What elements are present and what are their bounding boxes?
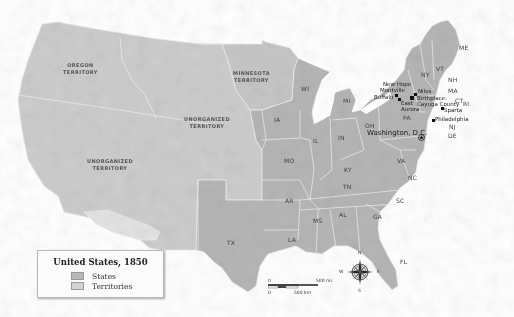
label-line: Territory xyxy=(87,165,133,172)
state-label-sc: SC xyxy=(396,198,404,204)
compass-e: E xyxy=(377,269,380,274)
state-label-pa: PA xyxy=(403,115,411,121)
label-minnesota-territory: Minnesota Territory xyxy=(233,70,270,83)
map-legend: United States, 1850 States Territories xyxy=(37,250,164,298)
label-line: Minnesota xyxy=(233,70,270,77)
state-label-de: DE xyxy=(448,133,457,139)
scale-km-end: 500 km xyxy=(294,290,311,295)
state-label-ms: MS xyxy=(313,218,322,224)
compass-n: N xyxy=(358,250,361,255)
compass-w: W xyxy=(339,269,343,274)
state-label-fl: FL xyxy=(400,259,407,265)
legend-item-states: States xyxy=(71,272,116,280)
state-label-nj: NJ xyxy=(449,124,456,130)
capital-star-icon xyxy=(418,134,425,141)
marker-new-hope xyxy=(395,94,398,97)
state-label-ky: KY xyxy=(344,167,352,173)
state-label-me: ME xyxy=(459,45,468,51)
scale-bar: 0 500 mi. 0 500 km xyxy=(266,278,338,298)
state-label-ny: NY xyxy=(421,72,430,78)
legend-item-territories: Territories xyxy=(71,282,132,290)
label-line: Unorganized xyxy=(184,116,230,123)
city-label-buffalo: Buffalo xyxy=(374,95,393,101)
state-label-la: LA xyxy=(288,237,296,243)
state-label-wi: WI xyxy=(301,86,309,92)
state-label-il: IL xyxy=(313,138,319,144)
label-line: Territory xyxy=(63,69,98,76)
scale-bar-graphic xyxy=(268,284,320,289)
state-label-vt: VT xyxy=(436,66,444,72)
state-label-ia: IA xyxy=(274,117,280,123)
state-label-al: AL xyxy=(339,212,347,218)
city-label-niles: Niles xyxy=(418,89,431,95)
label-line: Territory xyxy=(233,77,270,84)
label-line: Oregon xyxy=(63,62,98,69)
label-line: Unorganized xyxy=(87,158,133,165)
compass-rose: N S W E xyxy=(343,255,377,289)
state-label-ar: AR xyxy=(285,198,294,204)
compass-s: S xyxy=(358,288,361,293)
territories-swatch xyxy=(71,282,84,290)
state-label-ma: MA xyxy=(448,88,458,94)
state-label-nh: NH xyxy=(448,77,457,83)
label-line: Territory xyxy=(184,123,230,130)
label-unorganized-territory-west: Unorganized Territory xyxy=(87,158,133,171)
legend-label-territories: Territories xyxy=(92,282,132,291)
state-label-va: VA xyxy=(397,158,405,164)
state-label-ga: GA xyxy=(373,214,382,220)
label-oregon-territory: Oregon Territory xyxy=(63,62,98,75)
legend-label-states: States xyxy=(92,272,116,281)
city-label-sparta: Sparta xyxy=(444,108,462,114)
states-swatch xyxy=(71,272,84,280)
compass-rose-icon xyxy=(343,255,377,289)
scale-km-start: 0 xyxy=(268,290,271,295)
legend-title: United States, 1850 xyxy=(38,257,163,267)
state-label-nc: NC xyxy=(408,175,417,181)
state-label-tx: TX xyxy=(227,240,235,246)
state-label-mo: MO xyxy=(284,158,294,164)
state-label-mi: MI xyxy=(343,98,350,104)
scale-mi-end: 500 mi. xyxy=(316,278,333,283)
scale-mi-start: 0 xyxy=(268,278,271,283)
city-label-philadelphia: Philadelphia xyxy=(435,117,469,123)
city-label-montville: Montville xyxy=(380,88,405,94)
state-label-in: IN xyxy=(338,135,345,141)
label-unorganized-territory-central: Unorganized Territory xyxy=(184,116,230,129)
state-label-ri: RI xyxy=(463,101,469,107)
state-label-tn: TN xyxy=(343,184,352,190)
